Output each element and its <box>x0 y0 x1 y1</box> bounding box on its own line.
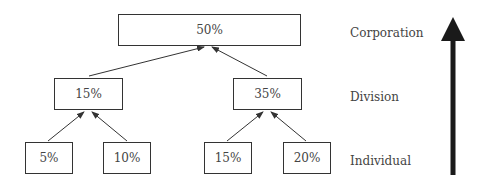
edge-div-left-to-corp <box>89 47 204 76</box>
edge-10-to-15 <box>92 112 127 141</box>
level-label-division: Division <box>350 90 399 104</box>
node-value: 15% <box>75 87 102 101</box>
edge-20-to-35 <box>271 112 306 141</box>
node-corporation: 50% <box>118 14 301 46</box>
node-individual-2: 10% <box>103 142 151 174</box>
node-individual-4: 20% <box>283 142 331 174</box>
hierarchy-diagram: 50% 15% 35% 5% 10% 15% 20% Corporation D… <box>0 0 487 185</box>
upward-arrow-icon <box>441 17 465 175</box>
edge-div-right-to-corp <box>212 47 267 76</box>
node-value: 5% <box>39 151 58 165</box>
node-division-left: 15% <box>54 78 123 110</box>
level-label-individual: Individual <box>350 154 411 168</box>
node-value: 15% <box>215 151 242 165</box>
node-individual-1: 5% <box>25 142 73 174</box>
level-label-corporation: Corporation <box>350 26 424 40</box>
node-division-right: 35% <box>233 78 302 110</box>
edge-5-to-15 <box>48 112 84 141</box>
node-value: 50% <box>196 23 223 37</box>
node-individual-3: 15% <box>204 142 252 174</box>
node-value: 20% <box>294 151 321 165</box>
node-value: 35% <box>254 87 281 101</box>
edge-15-to-35 <box>227 112 263 141</box>
node-value: 10% <box>114 151 141 165</box>
